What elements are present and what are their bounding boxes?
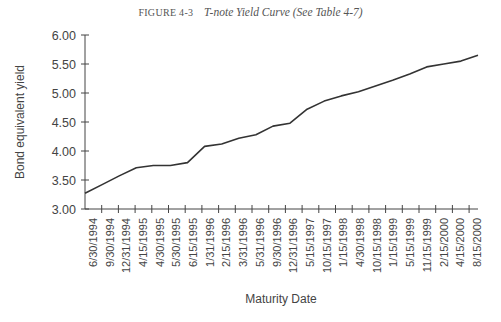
x-tick-label: 2/15/2000 bbox=[438, 218, 450, 267]
x-tick-label: 4/15/1995 bbox=[137, 218, 149, 267]
x-tick-label: 3/31/1996 bbox=[237, 218, 249, 267]
x-tick-label: 11/15/1999 bbox=[421, 218, 433, 272]
x-tick-label: 10/15/1997 bbox=[321, 218, 333, 273]
x-tick-label: 4/15/2000 bbox=[454, 218, 466, 267]
x-tick-label: 8/15/2000 bbox=[471, 218, 483, 267]
y-tick-label: 4.50 bbox=[52, 116, 76, 130]
x-tick-label: 5/15/1999 bbox=[404, 218, 416, 267]
yield-curve-chart: 3.003.504.004.505.005.506.00 6/30/19949/… bbox=[0, 0, 501, 322]
x-tick-label: 9/30/1996 bbox=[271, 218, 283, 267]
x-axis-title: Maturity Date bbox=[245, 292, 317, 306]
y-tick-label: 3.00 bbox=[52, 203, 76, 217]
y-tick-label: 4.00 bbox=[52, 145, 76, 159]
x-tick-label: 5/30/1995 bbox=[170, 218, 182, 267]
x-tick-label: 5/31/1996 bbox=[254, 218, 266, 267]
x-tick-label: 2/15/1996 bbox=[220, 218, 232, 267]
y-tick-label: 3.50 bbox=[52, 174, 76, 188]
x-tick-label: 6/30/1994 bbox=[87, 218, 99, 267]
x-tick-label: 10/15/1998 bbox=[371, 218, 383, 273]
y-axis-title: Bond equivalent yield bbox=[13, 65, 27, 179]
y-axis: 3.003.504.004.505.005.506.00 bbox=[52, 29, 89, 217]
x-tick-label: 1/15/1999 bbox=[387, 218, 399, 267]
x-tick-label: 1/31/1996 bbox=[204, 218, 216, 267]
x-tick-label: 9/30/1994 bbox=[104, 218, 116, 267]
y-tick-label: 6.00 bbox=[52, 29, 76, 43]
x-tick-label: 12/31/1996 bbox=[287, 218, 299, 273]
x-tick-label: 12/31/1994 bbox=[120, 218, 132, 273]
y-tick-label: 5.50 bbox=[52, 58, 76, 72]
x-axis: 6/30/19949/30/199412/31/19944/15/19954/3… bbox=[85, 205, 483, 273]
y-tick-label: 5.00 bbox=[52, 87, 76, 101]
x-tick-label: 5/15/1997 bbox=[304, 218, 316, 267]
x-tick-label: 4/30/1998 bbox=[354, 218, 366, 267]
x-tick-label: 6/15/1995 bbox=[187, 218, 199, 267]
x-tick-label: 1/15/1998 bbox=[337, 218, 349, 267]
x-tick-label: 4/30/1995 bbox=[154, 218, 166, 267]
yield-curve-line bbox=[85, 55, 478, 193]
